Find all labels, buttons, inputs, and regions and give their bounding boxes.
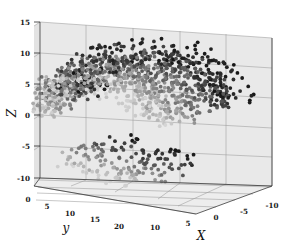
x-tick-4: -10: [266, 201, 279, 210]
y-tick-2: 10: [65, 209, 75, 218]
z-tick-4: -5: [22, 142, 30, 151]
y-tick-4: 20: [114, 222, 124, 231]
y-tick-3: 15: [90, 215, 100, 224]
z-tick-5: -10: [17, 174, 30, 183]
x-axis-title: X: [196, 229, 206, 243]
x-tick-1: 5: [185, 219, 190, 228]
z-tick-0: 15: [20, 18, 30, 27]
z-tick-3: 0: [25, 111, 30, 120]
figure-3d-scatter: 15 10 5 0 -5 -10 0 5 10 15 20 10 5 0 -5 …: [0, 0, 289, 248]
z-tick-2: 5: [25, 80, 30, 89]
x-tick-3: -5: [240, 207, 248, 216]
x-tick-0: 10: [150, 223, 160, 232]
y-tick-0: 0: [25, 195, 30, 204]
z-axis-title: Z: [5, 108, 19, 118]
x-tick-2: 0: [213, 213, 218, 222]
y-axis-title: y: [62, 221, 70, 235]
y-tick-1: 5: [44, 202, 49, 211]
z-tick-1: 10: [20, 49, 30, 58]
plot-canvas[interactable]: 15 10 5 0 -5 -10 0 5 10 15 20 10 5 0 -5 …: [0, 0, 289, 248]
